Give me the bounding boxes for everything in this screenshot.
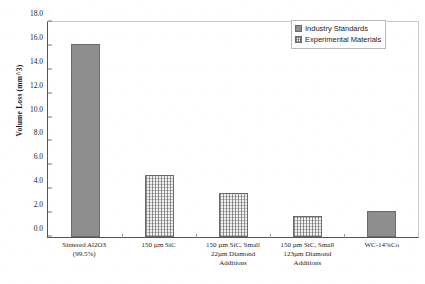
x-axis-label: 150 µm SiC bbox=[121, 241, 195, 269]
x-axis-label: 150 µm SiC, Small123µm DiamondAdditions bbox=[270, 241, 344, 269]
x-axis-label-line1: 150 µm SiC, Small bbox=[197, 241, 269, 250]
bar-slot bbox=[196, 22, 270, 237]
x-tick-mark bbox=[196, 234, 197, 238]
bar[interactable] bbox=[219, 193, 248, 237]
y-tick-label: 16.0 bbox=[30, 32, 48, 41]
x-axis-label-line1: 150 µm SiC, Small bbox=[271, 241, 343, 250]
x-axis-label: Sintered Al2O3(99.5%) bbox=[47, 241, 121, 269]
y-tick-label: 8.0 bbox=[34, 128, 48, 137]
bar-slot bbox=[344, 22, 418, 237]
x-axis-label-line1: Sintered Al2O3 bbox=[48, 241, 120, 250]
x-axis-label-line2: 123µm Diamond bbox=[271, 250, 343, 259]
bar-series-group bbox=[48, 22, 418, 237]
legend-label: Industry Standards bbox=[305, 24, 368, 33]
y-tick-label: 0.0 bbox=[34, 224, 48, 233]
x-axis-label-line2: 22µm Diamond bbox=[197, 250, 269, 259]
bar[interactable] bbox=[293, 216, 322, 238]
plot-area: 18.016.014.012.010.08.06.04.02.00.0 bbox=[47, 21, 419, 238]
x-tick-mark bbox=[270, 234, 271, 238]
x-tick-mark bbox=[122, 234, 123, 238]
legend-label: Experimental Materials bbox=[305, 35, 381, 44]
y-tick-label: 12.0 bbox=[30, 80, 48, 89]
bar-slot bbox=[48, 22, 122, 237]
bar-slot bbox=[270, 22, 344, 237]
legend-swatch-icon bbox=[295, 36, 302, 43]
bar[interactable] bbox=[145, 175, 174, 237]
legend-item[interactable]: Experimental Materials bbox=[295, 34, 381, 45]
x-axis-label: WC-14%Co bbox=[345, 241, 419, 269]
bar[interactable] bbox=[367, 211, 396, 237]
y-tick-label: 4.0 bbox=[34, 176, 48, 185]
x-axis-label-line1: 150 µm SiC bbox=[122, 241, 194, 250]
x-tick-mark bbox=[344, 234, 345, 238]
x-axis-label-line3: Additions bbox=[271, 259, 343, 268]
legend-item[interactable]: Industry Standards bbox=[295, 23, 381, 34]
x-axis-label-line1: WC-14%Co bbox=[346, 241, 418, 250]
y-tick-label: 2.0 bbox=[34, 200, 48, 209]
y-tick-label: 6.0 bbox=[34, 152, 48, 161]
y-axis-title: Volume Loss (mm^3) bbox=[15, 36, 24, 166]
x-axis-label-line3: Additions bbox=[197, 259, 269, 268]
legend-swatch-icon bbox=[295, 25, 302, 32]
y-tick-label: 10.0 bbox=[30, 104, 48, 113]
x-axis-labels: Sintered Al2O3(99.5%)150 µm SiC150 µm Si… bbox=[47, 241, 419, 269]
bar-chart: Volume Loss (mm^3) 18.016.014.012.010.08… bbox=[0, 0, 425, 284]
chart-legend: Industry StandardsExperimental Materials bbox=[291, 20, 386, 49]
x-axis-label-line2: (99.5%) bbox=[48, 250, 120, 259]
y-tick-label: 14.0 bbox=[30, 56, 48, 65]
y-tick-label: 18.0 bbox=[30, 9, 48, 18]
bar[interactable] bbox=[71, 44, 100, 238]
x-axis-label: 150 µm SiC, Small22µm DiamondAdditions bbox=[196, 241, 270, 269]
bar-slot bbox=[122, 22, 196, 237]
